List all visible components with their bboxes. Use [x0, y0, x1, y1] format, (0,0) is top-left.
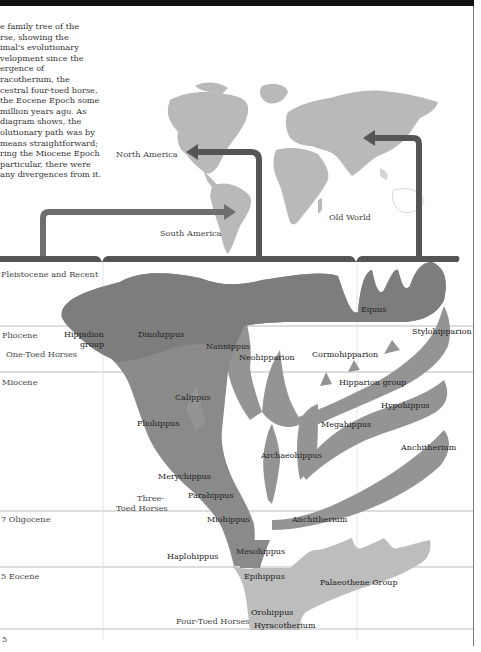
- epoch-eocene: 5 Eocene: [1, 571, 39, 581]
- north-america-label: North America: [116, 149, 178, 159]
- epoch-bottom: 5: [2, 634, 7, 644]
- species-palaeothene-group: Palaeothene Group: [320, 578, 398, 587]
- species-neohipparion: Neohipparion: [239, 353, 295, 362]
- species-dinohippus: Dinohippus: [138, 330, 184, 339]
- species-equus: Equus: [361, 305, 386, 314]
- species-orohippus: Orohippus: [251, 608, 293, 617]
- old-world-label: Old World: [329, 212, 371, 222]
- species-epihippus: Epihippus: [244, 572, 285, 581]
- three-toed-horses-label-1: Three-: [137, 493, 164, 503]
- species-parahippus: Parahippus: [188, 491, 234, 500]
- south-america-label: South America: [160, 228, 222, 238]
- epoch-miocene: Miocene: [2, 377, 37, 387]
- species-miohippus: Miohippus: [207, 515, 250, 524]
- species-merychippus: Merychippus: [158, 472, 211, 481]
- species-hippidion: Hippidion: [64, 330, 104, 339]
- epoch-pliocene: Pliocene: [2, 330, 37, 340]
- species-calippus: Calippus: [175, 393, 211, 402]
- species-hyracotherium: Hyracotherium: [254, 621, 316, 630]
- species-haplohippus: Haplohippus: [167, 552, 218, 561]
- species-stylohipparion: Stylohipparion: [412, 327, 472, 336]
- epoch-oligocene: 7 Oligocene: [1, 514, 50, 524]
- species-anchitherium-center: Anchitherium: [292, 515, 347, 524]
- species-hypohippus: Hypohippus: [381, 401, 430, 410]
- species-hipparion-group: Hipparion group: [339, 378, 406, 387]
- species-mesohippus: Mesohippus: [236, 547, 285, 556]
- four-toed-horses-label: Four-Toed Horses: [176, 616, 250, 626]
- species-cormohipparion: Cormohipparion: [312, 350, 378, 359]
- one-toed-horses-label: One-Toed Horses: [6, 349, 77, 359]
- species-anchitherium-right: Anchitherium: [401, 443, 456, 452]
- species-archaeohippus: Archaeohippus: [261, 451, 322, 460]
- species-megahippus: Megahippus: [321, 420, 371, 429]
- species-pliohippus: Pliohippus: [137, 419, 180, 428]
- species-nannippus: Nannippus: [206, 342, 250, 351]
- species-hippidion-group: group: [80, 340, 104, 349]
- three-toed-horses-label-2: Toed Horses: [116, 503, 168, 513]
- baseline-bar: [0, 256, 460, 262]
- epoch-pleistocene: Pleistocene and Recent: [1, 269, 98, 279]
